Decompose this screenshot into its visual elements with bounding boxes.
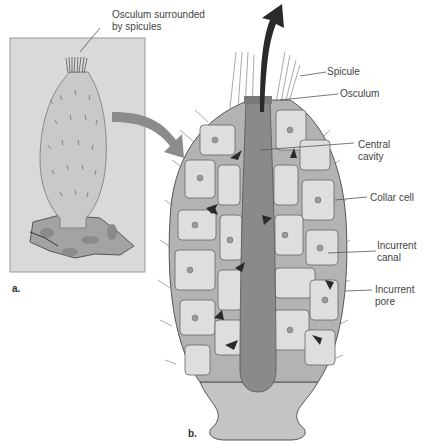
osculum bbox=[244, 96, 272, 104]
panel-a-letter: a. bbox=[12, 283, 20, 294]
label-incurrent-canal: Incurrent canal bbox=[377, 240, 416, 264]
panel-b-letter: b. bbox=[188, 428, 197, 439]
label-central-cavity: Central cavity bbox=[358, 139, 390, 163]
label-osculum: Osculum bbox=[340, 88, 379, 100]
label-spicule: Spicule bbox=[327, 66, 360, 78]
label-collar-cell: Collar cell bbox=[370, 192, 414, 204]
central-cavity bbox=[240, 100, 276, 392]
osculum-callout-label: Osculum surrounded by spicules bbox=[112, 9, 205, 33]
label-incurrent-pore: Incurrent pore bbox=[375, 284, 414, 308]
water-flow-arrow bbox=[256, 4, 284, 112]
panel-b-illustration bbox=[0, 0, 429, 444]
